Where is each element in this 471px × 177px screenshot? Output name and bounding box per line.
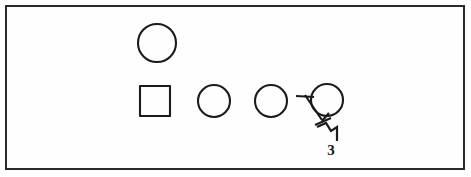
figure-drawing: 3 (0, 0, 471, 177)
circle-top (138, 24, 176, 62)
leader-annotation (296, 95, 337, 141)
figure-canvas: 3 (0, 0, 471, 177)
square (140, 86, 170, 116)
circle-third (255, 85, 287, 117)
reference-numeral-3: 3 (327, 142, 335, 158)
leader-diagonal-icon (305, 95, 322, 120)
leader-zigzag-icon (317, 123, 337, 141)
circle-second (198, 85, 230, 117)
